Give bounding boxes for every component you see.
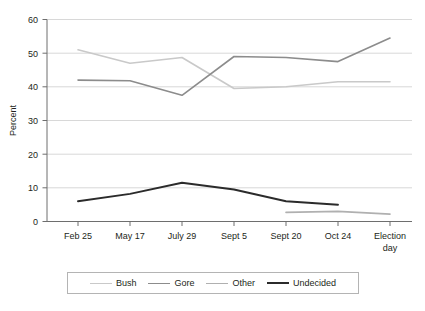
series-line-other bbox=[286, 211, 390, 214]
legend-label-gore: Gore bbox=[174, 278, 194, 288]
x-tick-label-july-29: July 29 bbox=[168, 231, 197, 241]
legend-item-bush[interactable]: Bush bbox=[84, 278, 143, 288]
y-axis-ticks bbox=[43, 20, 48, 222]
y-tick-label-40: 40 bbox=[28, 82, 38, 92]
legend-label-other: Other bbox=[232, 278, 255, 288]
chart-area: 60 50 40 30 20 10 0 Percent Feb 25 May 1… bbox=[0, 0, 425, 265]
gridlines bbox=[47, 20, 412, 188]
legend-swatch-gore bbox=[148, 283, 170, 284]
x-tick-label-sept-5: Sept 5 bbox=[221, 231, 247, 241]
legend-label-undecided: Undecided bbox=[293, 278, 336, 288]
y-tick-label-60: 60 bbox=[28, 15, 38, 25]
x-tick-label-oct-24: Oct 24 bbox=[325, 231, 352, 241]
x-axis-ticks bbox=[78, 222, 390, 227]
line-chart: 60 50 40 30 20 10 0 Percent Feb 25 May 1… bbox=[0, 0, 425, 265]
series-line-undecided bbox=[78, 183, 338, 205]
legend-swatch-bush bbox=[90, 283, 112, 284]
legend-swatch-other bbox=[206, 283, 228, 284]
x-tick-label-may-17: May 17 bbox=[115, 231, 145, 241]
legend-item-gore[interactable]: Gore bbox=[142, 278, 200, 288]
y-tick-label-20: 20 bbox=[28, 150, 38, 160]
y-tick-label-30: 30 bbox=[28, 116, 38, 126]
x-tick-label-election-day-line1: Election bbox=[374, 231, 406, 241]
legend-item-undecided[interactable]: Undecided bbox=[261, 278, 342, 288]
series-line-bush bbox=[78, 50, 390, 89]
legend-swatch-undecided bbox=[267, 282, 289, 284]
figure-caption bbox=[3, 301, 423, 311]
y-tick-label-50: 50 bbox=[28, 49, 38, 59]
legend-label-bush: Bush bbox=[116, 278, 137, 288]
y-axis-title: Percent bbox=[8, 104, 18, 136]
x-tick-label-election-day-line2: day bbox=[383, 243, 398, 253]
y-tick-label-10: 10 bbox=[28, 183, 38, 193]
chart-legend: Bush Gore Other Undecided bbox=[67, 272, 359, 294]
figure-container: 60 50 40 30 20 10 0 Percent Feb 25 May 1… bbox=[0, 0, 425, 311]
x-tick-label-sept-20: Sept 20 bbox=[270, 231, 301, 241]
y-tick-label-0: 0 bbox=[33, 217, 38, 227]
legend-item-other[interactable]: Other bbox=[200, 278, 261, 288]
x-tick-label-feb-25: Feb 25 bbox=[64, 231, 92, 241]
